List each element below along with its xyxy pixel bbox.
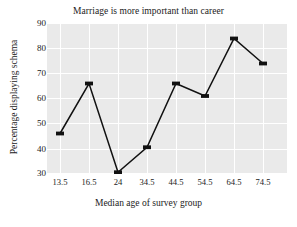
y-tick-label: 60	[24, 94, 46, 103]
data-point-marker	[143, 145, 151, 149]
data-point-marker	[259, 62, 267, 66]
data-series-line	[47, 23, 287, 174]
data-point-marker	[201, 94, 209, 98]
y-tick-label: 70	[24, 69, 46, 78]
chart-figure: Marriage is more important than career 9…	[0, 0, 297, 227]
y-tick-label: 90	[24, 19, 46, 28]
data-point-marker	[230, 37, 238, 41]
y-axis-label: Percentage displaying schema	[9, 17, 19, 177]
data-point-marker	[56, 132, 64, 136]
y-tick-label: 30	[24, 169, 46, 178]
data-point-marker	[114, 170, 122, 174]
plot-area	[47, 23, 287, 174]
chart-title: Marriage is more important than career	[0, 6, 297, 16]
y-tick-label: 50	[24, 119, 46, 128]
y-tick-label: 40	[24, 145, 46, 154]
x-tick-label: 74.5	[246, 178, 280, 187]
data-point-marker	[85, 82, 93, 86]
data-point-marker	[172, 82, 180, 86]
y-tick-label: 80	[24, 44, 46, 53]
x-axis-label: Median age of survey group	[0, 198, 297, 208]
